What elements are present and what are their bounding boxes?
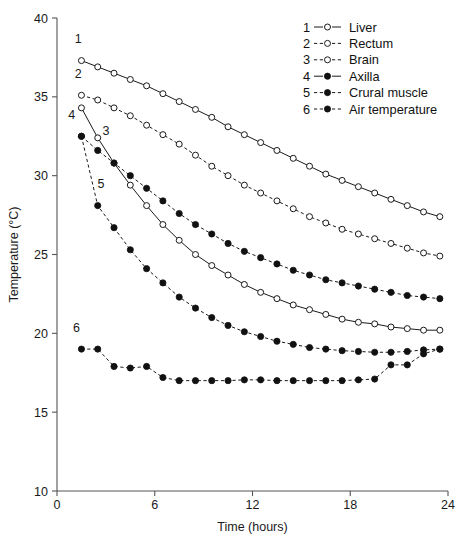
data-point: [355, 377, 361, 383]
data-point: [323, 277, 329, 283]
data-point: [355, 348, 361, 354]
legend-item-number: 3: [303, 52, 310, 67]
data-point: [192, 221, 198, 227]
legend-item-number: 4: [303, 69, 310, 84]
data-point: [290, 302, 296, 308]
legend-item-rectum: 2Rectum: [303, 36, 393, 51]
data-point: [225, 272, 231, 278]
data-point: [339, 316, 345, 322]
legend-item-label: Brain: [349, 52, 379, 67]
series-line: [81, 349, 439, 381]
data-point: [127, 173, 133, 179]
legend-item-label: Crural muscle: [349, 85, 428, 100]
data-point: [274, 378, 280, 384]
curve-number-label: 4: [68, 108, 75, 122]
data-point: [372, 321, 378, 327]
data-point: [209, 114, 215, 120]
legend-item-label: Liver: [349, 20, 377, 35]
data-point: [144, 363, 150, 369]
curve-number-label: 5: [98, 177, 105, 191]
data-point: [437, 253, 443, 259]
data-point: [437, 296, 443, 302]
data-point: [258, 377, 264, 383]
data-point: [241, 132, 247, 138]
data-point: [209, 163, 215, 169]
legend-open-circle-icon: [325, 40, 331, 46]
legend-item-axilla: 4Axilla: [303, 69, 380, 84]
data-point: [176, 141, 182, 147]
data-point: [372, 376, 378, 382]
data-point: [290, 155, 296, 161]
data-point: [160, 198, 166, 204]
y-axis-title: Temperature (°C): [7, 207, 21, 303]
data-point: [420, 294, 426, 300]
legend-filled-circle-icon: [324, 106, 330, 112]
data-point: [127, 76, 133, 82]
data-point: [127, 365, 133, 371]
data-point: [290, 267, 296, 273]
curve-number-label: 3: [102, 124, 109, 138]
data-point: [437, 214, 443, 220]
data-point: [209, 314, 215, 320]
x-tick-label: 12: [246, 498, 260, 512]
legend-filled-circle-icon: [324, 73, 330, 79]
data-point: [241, 329, 247, 335]
data-point: [339, 280, 345, 286]
data-point: [111, 225, 117, 231]
data-point: [111, 70, 117, 76]
data-point: [437, 346, 443, 352]
data-point: [78, 58, 84, 64]
data-point: [306, 378, 312, 384]
data-point: [144, 185, 150, 191]
data-point: [290, 378, 296, 384]
data-point: [160, 132, 166, 138]
data-point: [192, 152, 198, 158]
legend-item-label: Air temperature: [349, 102, 437, 117]
data-point: [127, 113, 133, 119]
chart-canvas: 10152025303540 06121824 123456 1Liver2Re…: [0, 0, 461, 537]
data-point: [307, 307, 313, 313]
x-tick-label: 18: [343, 498, 357, 512]
data-point: [95, 135, 101, 141]
data-point: [339, 177, 345, 183]
data-point: [388, 240, 394, 246]
data-point: [241, 248, 247, 254]
data-point: [192, 252, 198, 258]
x-tick-label: 0: [54, 498, 61, 512]
data-point: [274, 147, 280, 153]
data-point: [192, 106, 198, 112]
legend-open-circle-icon: [325, 24, 331, 30]
data-point: [225, 173, 231, 179]
data-point: [339, 378, 345, 384]
y-tick-label: 15: [34, 406, 48, 420]
legend-item-number: 6: [303, 102, 310, 117]
x-axis: 06121824: [54, 491, 455, 512]
data-point: [404, 362, 410, 368]
y-tick-label: 25: [34, 248, 48, 262]
legend-item-number: 2: [303, 36, 310, 51]
data-point: [160, 91, 166, 97]
curve-number-label: 6: [73, 321, 80, 335]
data-point: [78, 346, 84, 352]
data-point: [274, 296, 280, 302]
data-point: [225, 124, 231, 130]
y-tick-label: 35: [34, 90, 48, 104]
data-point: [421, 327, 427, 333]
data-point: [323, 171, 329, 177]
data-point: [111, 363, 117, 369]
data-point: [209, 263, 215, 269]
series-line: [81, 136, 439, 352]
data-point: [241, 377, 247, 383]
data-point: [192, 305, 198, 311]
temperature-decay-chart: 10152025303540 06121824 123456 1Liver2Re…: [0, 0, 461, 537]
data-point: [274, 198, 280, 204]
data-point: [176, 294, 182, 300]
data-point: [339, 226, 345, 232]
data-point: [421, 209, 427, 215]
series-axilla: [78, 133, 443, 302]
data-point: [160, 222, 166, 228]
data-point: [323, 220, 329, 226]
legend-item-air-temperature: 6Air temperature: [303, 102, 437, 117]
legend-item-number: 1: [303, 20, 310, 35]
data-point: [274, 261, 280, 267]
